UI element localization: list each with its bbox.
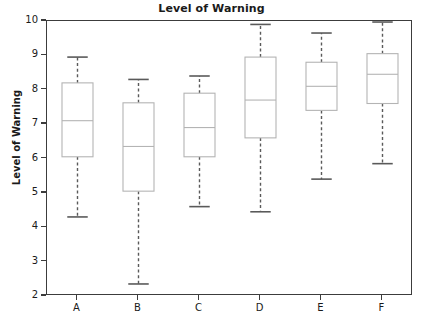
y-tick-label: 5 — [8, 187, 38, 197]
x-tick-label-c: C — [179, 302, 219, 313]
box-rect — [62, 83, 93, 157]
x-tick-label-f: F — [362, 302, 402, 313]
y-tick-mark — [41, 122, 46, 123]
x-tick-label-b: B — [118, 302, 158, 313]
chart-title: Level of Warning — [0, 2, 423, 15]
box-f — [367, 22, 398, 164]
y-tick-mark — [41, 88, 46, 89]
x-tick-mark — [137, 295, 138, 300]
y-tick-mark — [41, 191, 46, 192]
y-tick-label: 4 — [8, 221, 38, 231]
y-tick-mark — [41, 294, 46, 295]
y-tick-label: 2 — [8, 290, 38, 300]
y-tick-label: 3 — [8, 256, 38, 266]
boxplot-canvas — [47, 21, 413, 296]
y-tick-mark — [41, 226, 46, 227]
x-tick-label-a: A — [57, 302, 97, 313]
y-tick-label: 7 — [8, 118, 38, 128]
box-a — [62, 57, 93, 217]
y-tick-label: 10 — [8, 15, 38, 25]
x-tick-mark — [320, 295, 321, 300]
y-tick-mark — [41, 157, 46, 158]
boxplot-figure: Level of Warning Level of Warning 234567… — [0, 0, 423, 330]
box-b — [123, 79, 154, 284]
box-rect — [245, 57, 276, 138]
y-tick-label: 9 — [8, 49, 38, 59]
x-tick-mark — [198, 295, 199, 300]
y-tick-label: 6 — [8, 153, 38, 163]
x-tick-label-e: E — [301, 302, 341, 313]
x-tick-label-d: D — [240, 302, 280, 313]
box-rect — [367, 54, 398, 104]
x-tick-mark — [381, 295, 382, 300]
y-axis-label: Level of Warning — [11, 78, 22, 198]
x-tick-mark — [76, 295, 77, 300]
box-d — [245, 24, 276, 211]
y-tick-mark — [41, 19, 46, 20]
y-tick-label: 8 — [8, 84, 38, 94]
box-c — [184, 76, 215, 207]
x-tick-mark — [259, 295, 260, 300]
y-tick-mark — [41, 260, 46, 261]
box-e — [306, 33, 337, 179]
box-rect — [184, 93, 215, 157]
plot-area — [46, 20, 412, 295]
y-tick-mark — [41, 54, 46, 55]
